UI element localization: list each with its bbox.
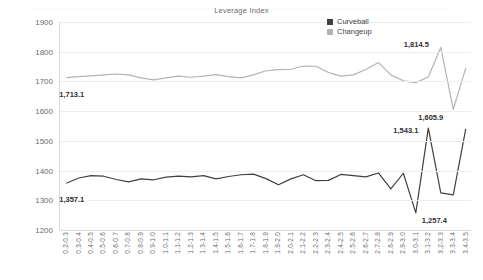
gridline [60, 171, 471, 172]
x-tick-label: 3.4-3.5 [462, 232, 469, 254]
chart-legend: CurveballChangeup [327, 17, 372, 37]
x-tick-label: 2.4-2.5 [337, 232, 344, 254]
x-tick-label: 2.2-2.3 [312, 232, 319, 254]
gridline [60, 22, 471, 23]
y-tick-label: 1800 [35, 47, 53, 56]
x-tick-label: 0.3-0.4 [75, 232, 82, 254]
x-tick-label: 0.5-0.6 [99, 232, 106, 254]
x-tick-label: 1.1-1.2 [174, 232, 181, 254]
legend-item-curveball[interactable]: Curveball [327, 17, 372, 27]
chart-title: Leverage Index [0, 6, 483, 15]
data-label: 1,713.1 [59, 90, 84, 99]
data-label: 1,814.5 [404, 40, 429, 49]
x-tick-label: 1.8-1.9 [262, 232, 269, 254]
x-tick-label: 3.0-3.1 [412, 232, 419, 254]
x-tick-label: 0.7-0.8 [124, 232, 131, 254]
y-tick-label: 1300 [35, 196, 53, 205]
x-tick-label: 1.9-2.0 [274, 232, 281, 254]
y-tick-label: 1500 [35, 136, 53, 145]
x-tick-label: 1.0-1.1 [162, 232, 169, 254]
x-tick-label: 2.0-2.1 [287, 232, 294, 254]
gridline [60, 52, 471, 53]
x-tick-label: 3.2-3.3 [437, 232, 444, 254]
gridline [60, 200, 471, 201]
x-tick-label: 0.2-0.3 [62, 232, 69, 254]
y-tick-label: 1600 [35, 107, 53, 116]
x-tick-label: 2.1-2.2 [299, 232, 306, 254]
x-tick-label: 0.6-0.7 [112, 232, 119, 254]
x-tick-label: 0.9-1.0 [149, 232, 156, 254]
x-tick-label: 1.7-1.8 [249, 232, 256, 254]
legend-label: Curveball [337, 17, 369, 27]
x-tick-label: 2.9-3.0 [399, 232, 406, 254]
x-tick-label: 2.8-2.9 [387, 232, 394, 254]
y-tick-label: 1200 [35, 226, 53, 235]
gridline [60, 111, 471, 112]
data-label: 1,543.1 [393, 126, 418, 135]
data-label: 1,257.4 [422, 216, 447, 225]
x-tick-label: 2.6-2.7 [362, 232, 369, 254]
x-tick-label: 2.5-2.6 [349, 232, 356, 254]
x-tick-label: 1.5-1.6 [224, 232, 231, 254]
y-tick-label: 1400 [35, 166, 53, 175]
legend-swatch-icon [327, 19, 333, 25]
x-axis-ticks: 0.2-0.30.3-0.40.4-0.50.5-0.60.6-0.70.7-0… [59, 232, 471, 280]
x-tick-label: 0.4-0.5 [87, 232, 94, 254]
x-tick-label: 1.2-1.3 [187, 232, 194, 254]
gridline [60, 81, 471, 82]
data-label: 1,605.9 [418, 113, 443, 122]
series-line-changeup [66, 47, 466, 109]
y-axis-ticks: 19001800170016001500140013001200 [0, 0, 59, 280]
y-tick-label: 1900 [35, 18, 53, 27]
x-tick-label: 1.6-1.7 [237, 232, 244, 254]
x-tick-label: 1.3-1.4 [199, 232, 206, 254]
x-tick-label: 2.7-2.8 [374, 232, 381, 254]
x-tick-label: 3.1-3.2 [424, 232, 431, 254]
y-tick-label: 1700 [35, 77, 53, 86]
legend-item-changeup[interactable]: Changeup [327, 27, 372, 37]
x-tick-label: 0.8-0.9 [137, 232, 144, 254]
x-tick-label: 1.4-1.5 [212, 232, 219, 254]
x-tick-label: 3.3-3.4 [449, 232, 456, 254]
x-tick-label: 2.3-2.4 [324, 232, 331, 254]
legend-label: Changeup [337, 27, 372, 37]
data-label: 1,357.1 [59, 195, 84, 204]
legend-swatch-icon [327, 29, 333, 35]
gridline [60, 141, 471, 142]
leverage-index-chart: Leverage Index 1900180017001600150014001… [0, 0, 483, 280]
